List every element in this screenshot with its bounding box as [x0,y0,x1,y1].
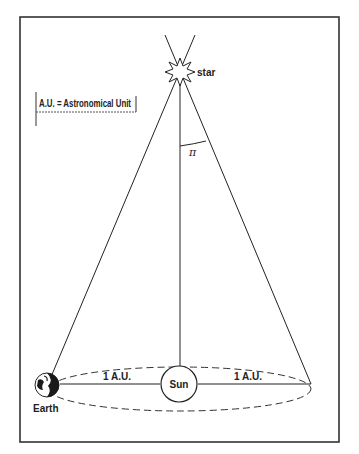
sightline-opposite [165,35,311,384]
star-label: star [197,67,215,78]
legend-box: A.U. = Astronomical Unit [36,92,136,126]
distance-label-left: 1 A.U. [103,371,131,382]
sightline-earth [48,35,195,384]
star-icon [165,58,195,86]
earth-icon [35,373,59,397]
legend-text: A.U. = Astronomical Unit [39,97,131,109]
sun-label: Sun [170,379,189,390]
earth-label: Earth [33,403,59,414]
parallax-diagram: A.U. = Astronomical Unit π star 1 A.U. 1… [0,0,359,454]
parallax-angle-label: π [188,146,197,159]
distance-label-right: 1 A.U. [234,371,262,382]
